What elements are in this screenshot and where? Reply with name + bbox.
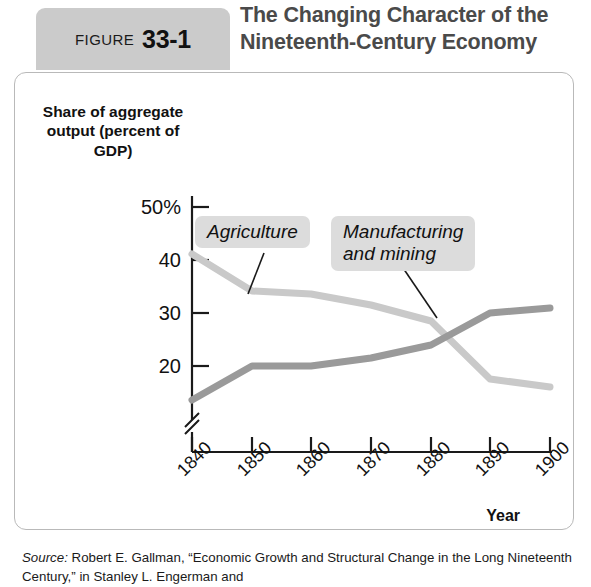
series-label-agriculture: Agriculture	[195, 216, 310, 248]
source-note: Source: Robert E. Gallman, “Economic Gro…	[22, 548, 582, 587]
source-text: Robert E. Gallman, “Economic Growth and …	[22, 550, 572, 584]
y-tick-label-40: 40	[121, 249, 181, 272]
x-axis-title: Year	[430, 507, 520, 525]
series-label-manufacturing: Manufacturing and mining	[331, 216, 475, 271]
y-tick-label-30: 30	[121, 302, 181, 325]
source-label: Source:	[22, 550, 68, 565]
series-line-manufacturing	[192, 308, 550, 400]
y-tick-label-50: 50%	[121, 196, 181, 219]
y-tick-label-20: 20	[121, 355, 181, 378]
